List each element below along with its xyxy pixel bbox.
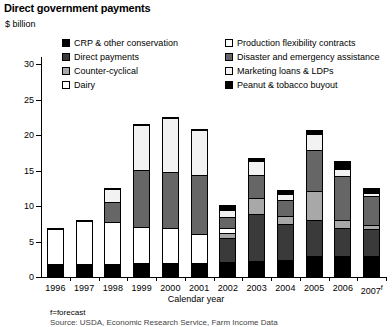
bar-segment-direct xyxy=(335,228,350,256)
white-square-swatch xyxy=(225,39,233,47)
bar-segment-counter xyxy=(307,191,322,220)
bar-segment-crp xyxy=(134,263,149,276)
y-axis-tick xyxy=(36,206,41,207)
bar-1996 xyxy=(47,228,64,277)
bar-segment-mlldp xyxy=(307,134,322,150)
x-axis-tick xyxy=(242,277,243,281)
bar-segment-counter xyxy=(249,198,264,214)
bar-segment-pfc xyxy=(105,222,120,264)
bar-segment-disaster xyxy=(220,217,235,228)
bar-2006 xyxy=(334,161,351,277)
x-axis-tick xyxy=(70,277,71,281)
bar-1999 xyxy=(133,124,150,277)
y-axis-tick xyxy=(36,135,41,136)
bar-segment-crp xyxy=(163,263,178,276)
y-axis-tick xyxy=(36,242,41,243)
y-axis-tick-label: 10 xyxy=(12,202,34,211)
bar-segment-mlldp xyxy=(105,189,120,202)
bar-segment-disaster xyxy=(249,175,264,198)
bar-segment-crp xyxy=(307,256,322,276)
y-axis-tick xyxy=(36,171,41,172)
bar-segment-disaster xyxy=(278,200,293,217)
x-axis-tick xyxy=(357,277,358,281)
legend-item-crp: CRP & other conservation xyxy=(62,38,178,48)
bar-segment-counter xyxy=(278,216,293,224)
x-axis-tick xyxy=(185,277,186,281)
bar-segment-disaster xyxy=(134,170,149,227)
bar-segment-mlldp xyxy=(134,125,149,170)
forecast-marker: f xyxy=(381,284,383,291)
bar-1998 xyxy=(104,188,121,277)
y-axis-unit-label: $ billion xyxy=(5,19,36,29)
bar-segment-pfc xyxy=(192,234,207,263)
bar-segment-direct xyxy=(278,224,293,260)
x-axis-tick xyxy=(271,277,272,281)
y-axis-tick-label: 15 xyxy=(12,167,34,176)
y-axis-tick xyxy=(36,277,41,278)
bar-segment-disaster xyxy=(307,150,322,191)
bar-segment-pfc xyxy=(134,227,149,263)
x-axis-tick xyxy=(127,277,128,281)
x-axis-title: Calendar year xyxy=(0,294,392,304)
x-axis-tick xyxy=(329,277,330,281)
bar-segment-disaster xyxy=(335,176,350,220)
bar-segment-crp xyxy=(220,262,235,276)
chart-figure: Direct government payments $ billion CRP… xyxy=(0,0,392,327)
bar-segment-direct xyxy=(364,229,379,256)
legend-item-label: Production flexibility contracts xyxy=(237,38,356,48)
bar-segment-crp xyxy=(249,261,264,276)
bar-segment-direct xyxy=(220,238,235,262)
bar-segment-pfc xyxy=(163,228,178,263)
x-axis-tick-label: 2007f xyxy=(352,283,392,296)
bar-segment-disaster xyxy=(192,175,207,234)
y-axis-tick-label: 5 xyxy=(12,238,34,247)
plot-area xyxy=(41,57,386,277)
bar-segment-crp xyxy=(77,264,92,276)
bar-segment-crp xyxy=(48,264,63,276)
black-square-swatch xyxy=(62,39,70,47)
y-axis-tick xyxy=(36,64,41,65)
bar-segment-peanut xyxy=(335,162,350,170)
x-axis-tick xyxy=(300,277,301,281)
bar-segment-mlldp xyxy=(220,210,235,217)
bar-segment-mlldp xyxy=(249,161,264,175)
bar-segment-crp xyxy=(105,264,120,276)
bar-2003 xyxy=(248,158,265,277)
bar-segment-crp xyxy=(278,260,293,276)
bar-2000 xyxy=(162,117,179,277)
y-axis-tick-label: 25 xyxy=(12,96,34,105)
bar-segment-disaster xyxy=(105,202,120,222)
bar-segment-pfc xyxy=(48,229,63,264)
legend-item-pfc: Production flexibility contracts xyxy=(225,38,356,48)
bar-2001 xyxy=(191,129,208,277)
bar-segment-disaster xyxy=(163,172,178,228)
source-note: Source: USDA, Economic Research Service,… xyxy=(50,318,278,327)
x-axis-tick xyxy=(214,277,215,281)
y-axis-tick xyxy=(36,100,41,101)
bar-segment-crp xyxy=(364,256,379,276)
y-axis-tick-label: 0 xyxy=(12,273,34,282)
bar-segment-pfc xyxy=(77,221,92,264)
legend-item-label: CRP & other conservation xyxy=(74,38,178,48)
bar-1997 xyxy=(76,220,93,277)
bar-segment-disaster xyxy=(364,196,379,224)
bar-segment-crp xyxy=(335,256,350,276)
bar-segment-counter xyxy=(335,220,350,228)
bar-segment-crp xyxy=(192,263,207,276)
x-axis-tick xyxy=(156,277,157,281)
y-axis-tick-label: 20 xyxy=(12,131,34,140)
y-axis-tick-label: 30 xyxy=(12,60,34,69)
x-axis-tick xyxy=(99,277,100,281)
bar-2007f xyxy=(363,188,380,277)
page-title: Direct government payments xyxy=(4,2,150,14)
x-axis-tick xyxy=(386,277,387,281)
bar-segment-mlldp xyxy=(192,130,207,176)
bar-segment-direct xyxy=(249,214,264,261)
bar-2004 xyxy=(277,190,294,277)
bar-2005 xyxy=(306,130,323,277)
bar-segment-direct xyxy=(307,220,322,256)
forecast-footnote: f=forecast xyxy=(50,308,85,317)
bar-2002 xyxy=(219,205,236,277)
bar-segment-mlldp xyxy=(163,118,178,171)
